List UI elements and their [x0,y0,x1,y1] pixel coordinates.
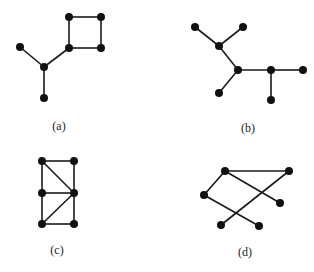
vertex [97,44,105,52]
vertex [217,221,225,229]
edge [20,47,44,67]
edge [42,193,74,224]
label-b: (b) [241,122,255,134]
vertex [65,44,73,52]
label-c: (c) [50,244,63,256]
vertex [38,157,46,165]
edge [44,48,69,67]
vertex [215,89,223,97]
label-d: (d) [238,246,252,258]
vertex [221,167,229,175]
vertex [40,94,48,102]
edge [219,27,243,46]
vertex [70,220,78,228]
vertex [70,189,78,197]
vertex [16,43,24,51]
edge [219,70,238,93]
graph-d [200,167,293,230]
graph-b [191,23,307,104]
vertex [239,23,247,31]
vertex [191,23,199,31]
edge [219,46,238,70]
edge [42,161,74,193]
graphs-drawing [0,0,314,272]
vertex [267,96,275,104]
edge [221,171,289,225]
vertex [40,63,48,71]
graph-a [16,13,105,102]
vertex [38,189,46,197]
vertex [299,66,307,74]
vertex [285,167,293,175]
edge [204,195,259,226]
vertex [70,157,78,165]
vertex [200,191,208,199]
vertex [65,13,73,21]
vertex [97,13,105,21]
label-a: (a) [52,120,65,132]
vertex [255,222,263,230]
graph-c [38,157,78,228]
edge [195,27,219,46]
edge [204,171,225,195]
graph-figure: (a) (b) (c) (d) [0,0,314,272]
edge [225,171,280,203]
vertex [215,42,223,50]
vertex [276,199,284,207]
vertex [38,220,46,228]
vertex [234,66,242,74]
vertex [267,66,275,74]
